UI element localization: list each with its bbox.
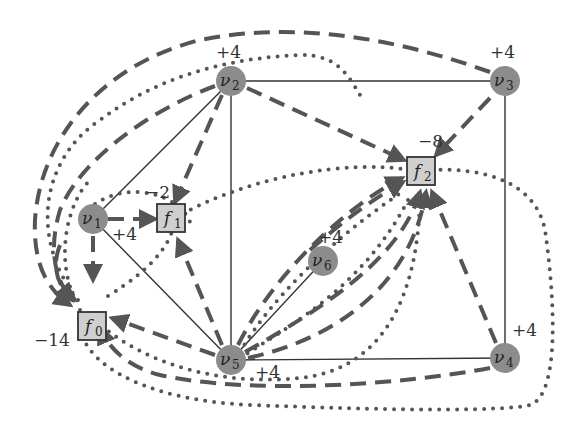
demand-label-f2: −8: [418, 131, 443, 151]
svg-text:ν: ν: [82, 208, 92, 228]
svg-text:ν: ν: [494, 70, 504, 90]
flow-v5-f0: [112, 318, 215, 355]
flow-v4-f2: [432, 192, 496, 343]
supply-label-v5: +4: [255, 362, 280, 382]
vertex-v2: ν 2 +4: [216, 42, 246, 96]
svg-text:2: 2: [424, 170, 432, 184]
svg-text:ν: ν: [494, 347, 504, 367]
flow-v3-f2: [436, 98, 490, 155]
svg-text:6: 6: [324, 259, 332, 273]
supply-label-v3: +4: [490, 42, 515, 62]
svg-text:0: 0: [95, 325, 103, 339]
flow-network-diagram: f 0 −14 f 1 −2 f 2 −8 ν 1 +4 ν 2 +4 ν 3 …: [0, 0, 581, 429]
supply-label-v2: +4: [216, 42, 241, 62]
svg-text:ν: ν: [220, 70, 230, 90]
facility-f2: f 2 −8: [407, 131, 443, 185]
demand-label-f0: −14: [34, 330, 70, 350]
svg-text:ν: ν: [220, 349, 230, 369]
supply-label-v6: +4: [318, 227, 343, 247]
vertex-v6: ν 6 +4: [308, 227, 343, 276]
flow-v2-f2: [247, 88, 404, 160]
facility-f0: f 0 −14: [34, 312, 106, 350]
svg-text:4: 4: [506, 356, 514, 370]
svg-text:1: 1: [174, 217, 182, 231]
vertex-v4: ν 4 +4: [490, 320, 537, 373]
svg-text:5: 5: [232, 358, 240, 372]
svg-text:2: 2: [232, 79, 240, 93]
dotted-path: [65, 180, 90, 295]
dotted-path: [79, 170, 553, 410]
supply-label-v1: +4: [112, 224, 137, 244]
svg-text:1: 1: [94, 217, 102, 231]
demand-label-f1: −2: [145, 182, 170, 202]
supply-label-v4: +4: [512, 320, 537, 340]
edge-v5-v4: [231, 358, 505, 360]
vertex-v3: ν 3 +4: [490, 42, 520, 96]
svg-text:3: 3: [506, 79, 514, 93]
vertex-v1: ν 1 +4: [78, 204, 137, 244]
flow-v2-f1: [175, 95, 222, 202]
svg-text:ν: ν: [312, 250, 322, 270]
